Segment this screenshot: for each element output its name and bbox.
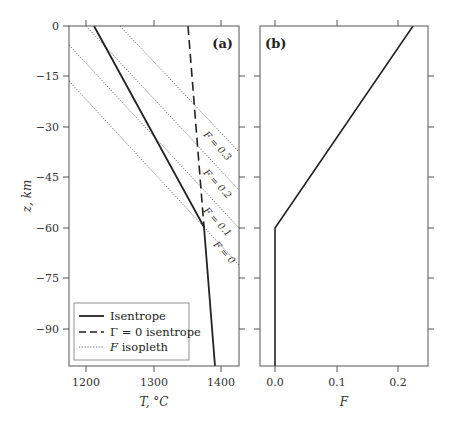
xtick-label: 1300 <box>140 376 168 389</box>
panel-a-label: (a) <box>212 36 233 51</box>
legend: Isentrope Γ = 0 isentrope F isopleth <box>74 303 201 360</box>
isopleth-label-f01: F = 0.1 <box>201 204 234 238</box>
isopleth-labels: F = 0.3 F = 0.2 F = 0.1 F = 0 <box>201 128 238 266</box>
panel-b-label: (b) <box>265 36 286 51</box>
isopleth-label-f0: F = 0 <box>211 238 238 266</box>
xtick-label: 0.1 <box>328 376 346 389</box>
ytick-label: −15 <box>36 70 59 83</box>
panel-b-yticks <box>254 76 434 329</box>
ytick-label: −90 <box>36 323 59 336</box>
isopleth-label-f02: F = 0.2 <box>201 166 234 200</box>
x-axis-label: F <box>339 395 349 409</box>
xtick-label: 0.0 <box>266 376 284 389</box>
melt-fraction-line <box>275 26 413 366</box>
panel-b-xticks: 0.0 0.1 0.2 <box>266 20 407 389</box>
y-axis-label: z, km <box>20 180 34 214</box>
legend-gamma0-label: Γ = 0 isentrope <box>110 325 201 339</box>
figure: 1200 1300 1400 0 −15 −30 −45 −60 −75 −9 <box>0 0 453 422</box>
panel-a: 1200 1300 1400 0 −15 −30 −45 −60 −75 −9 <box>20 20 245 409</box>
ytick-label: −45 <box>36 171 59 184</box>
ytick-label: −30 <box>36 121 59 134</box>
xtick-label: 1400 <box>207 376 235 389</box>
ytick-label: −75 <box>36 272 59 285</box>
panel-b-frame <box>260 26 428 366</box>
isopleth-label-f03: F = 0.3 <box>201 128 234 162</box>
ytick-label: 0 <box>52 20 59 33</box>
xtick-label: 0.2 <box>389 376 407 389</box>
legend-isentrope-label: Isentrope <box>110 309 166 323</box>
x-axis-label: T, °C <box>139 395 168 409</box>
legend-isopleth-label: F isopleth <box>109 340 169 354</box>
panel-b: 0.0 0.1 0.2 F (b) <box>254 20 434 409</box>
gamma0-isentrope-line <box>188 26 204 227</box>
ytick-label: −60 <box>36 222 59 235</box>
xtick-label: 1200 <box>72 376 100 389</box>
